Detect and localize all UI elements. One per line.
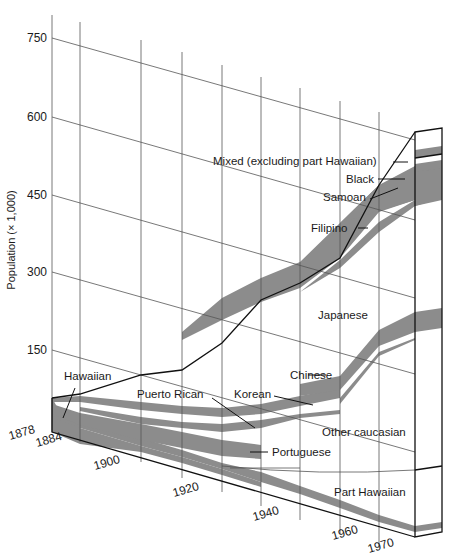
label-filipino: Filipino [311, 222, 347, 234]
label-japanese: Japanese [318, 309, 368, 321]
band-end-bottom [415, 522, 442, 532]
y-tick-450: 450 [27, 188, 47, 202]
label-black: Black [346, 173, 374, 185]
x-tick-1900: 1900 [92, 452, 122, 473]
x-tick-1920: 1920 [171, 479, 201, 500]
y-tick-600: 600 [27, 110, 47, 124]
label-samoan: Samoan [323, 191, 366, 203]
label-part-hawaiian: Part Hawaiian [334, 486, 406, 498]
population-chart: 750 600 450 300 150 Population (× 1,000)… [0, 0, 451, 559]
band-filipino-end [415, 168, 442, 206]
label-hawaiian: Hawaiian [64, 370, 111, 382]
band-chinese [300, 312, 415, 396]
y-tick-750: 750 [27, 31, 47, 45]
y-axis-label: Population (× 1,000) [5, 190, 17, 289]
x-tick-1960: 1960 [330, 522, 360, 543]
data-bands [52, 146, 442, 532]
y-tick-300: 300 [27, 265, 47, 279]
label-portuguese: Portuguese [272, 446, 331, 458]
label-other-caucasian: Other caucasian [322, 426, 406, 438]
label-chinese: Chinese [290, 369, 332, 381]
x-tick-1878: 1878 [7, 422, 37, 443]
label-korean: Korean [234, 388, 271, 400]
y-tick-150: 150 [27, 343, 47, 357]
x-tick-1940: 1940 [251, 503, 281, 524]
x-tick-1970: 1970 [366, 535, 396, 556]
y-axis: 750 600 450 300 150 Population (× 1,000) [5, 31, 47, 357]
label-mixed: Mixed (excluding part Hawaiian) [213, 155, 377, 167]
band-japanese-end [415, 308, 442, 332]
x-tick-1884: 1884 [34, 429, 64, 450]
label-puerto-rican: Puerto Rican [137, 388, 203, 400]
